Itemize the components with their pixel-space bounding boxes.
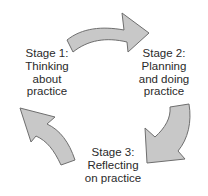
- stage-2-line-2: Planning: [128, 60, 200, 73]
- stage-2-line-1: Stage 2:: [128, 47, 200, 60]
- arrow-stage2-to-stage3-icon: [145, 104, 190, 163]
- arrow-stage3-to-stage1-icon: [20, 108, 75, 165]
- stage-1-line-2: Thinking: [12, 60, 82, 73]
- stage-2-line-3: and doing: [128, 73, 200, 86]
- stage-3-line-2: Reflecting: [78, 159, 148, 172]
- stage-3-line-1: Stage 3:: [78, 146, 148, 159]
- stage-1-line-3: about: [12, 73, 82, 86]
- stage-2-line-4: practice: [128, 85, 200, 98]
- stage-3-label: Stage 3: Reflecting on practice: [78, 146, 148, 184]
- stage-2-label: Stage 2: Planning and doing practice: [128, 47, 200, 98]
- cycle-diagram: Stage 1: Thinking about practice Stage 2…: [0, 0, 208, 196]
- stage-1-label: Stage 1: Thinking about practice: [12, 47, 82, 98]
- stage-1-line-4: practice: [12, 85, 82, 98]
- stage-1-line-1: Stage 1:: [12, 47, 82, 60]
- stage-3-line-3: on practice: [78, 172, 148, 185]
